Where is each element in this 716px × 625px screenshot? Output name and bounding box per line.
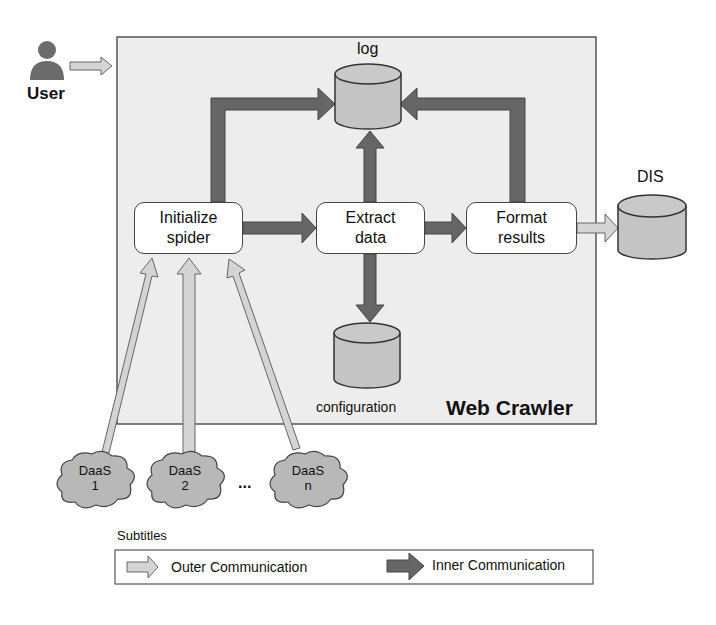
user-outer-arrow bbox=[70, 57, 112, 75]
log-label: log bbox=[357, 40, 378, 58]
legend-inner-label: Inner Communication bbox=[432, 557, 565, 573]
process-format-results[interactable]: Formatresults bbox=[466, 202, 577, 254]
web-crawler-title: Web Crawler bbox=[446, 396, 573, 420]
process-label-line1: Extract bbox=[346, 208, 396, 228]
process-label-line1: Initialize bbox=[160, 208, 218, 228]
daas-n-label: DaaSn bbox=[278, 463, 338, 493]
dis-cylinder-icon bbox=[618, 195, 686, 259]
daas-name: DaaS bbox=[278, 463, 338, 478]
daas-index: n bbox=[278, 478, 338, 493]
daas-2-label: DaaS2 bbox=[155, 463, 215, 493]
daas-name: DaaS bbox=[65, 463, 125, 478]
diagram-canvas bbox=[0, 0, 716, 625]
daas-name: DaaS bbox=[155, 463, 215, 478]
configuration-cylinder-icon bbox=[334, 323, 400, 388]
log-cylinder-icon bbox=[335, 64, 401, 129]
daas-index: 2 bbox=[155, 478, 215, 493]
process-label-line2: results bbox=[496, 228, 547, 248]
process-label-line2: data bbox=[346, 228, 396, 248]
process-initialize-spider[interactable]: Initializespider bbox=[134, 202, 243, 254]
legend-title: Subtitles bbox=[117, 528, 167, 543]
daas-ellipsis: ... bbox=[238, 474, 251, 492]
process-label-line2: spider bbox=[160, 228, 218, 248]
daas-index: 1 bbox=[65, 478, 125, 493]
configuration-label: configuration bbox=[316, 399, 396, 415]
daas-1-label: DaaS1 bbox=[65, 463, 125, 493]
legend-outer-label: Outer Communication bbox=[171, 559, 307, 575]
process-label-line1: Format bbox=[496, 208, 547, 228]
user-icon bbox=[30, 41, 64, 80]
user-label: User bbox=[27, 84, 65, 104]
process-extract-data[interactable]: Extractdata bbox=[316, 202, 425, 254]
dis-label: DIS bbox=[637, 168, 664, 186]
